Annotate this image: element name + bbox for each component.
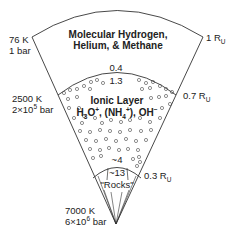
ionic-layer-formula: H3O+, (NH4+), OH− (77, 107, 158, 118)
rock-fan-line (116, 192, 122, 224)
core-pressure: 6×106 bar (65, 216, 106, 227)
ionic-top-pressure: 2×105 bar (12, 104, 53, 115)
radius-rocks-label: 0.3 RU (144, 170, 171, 181)
density-top: 0.4 (109, 62, 122, 73)
density-bottom: ~4 (112, 154, 123, 165)
radius-ionic-label: 0.7 RU (183, 90, 210, 101)
left-boundary-line (32, 37, 116, 224)
surface-temp: 76 K (9, 34, 29, 45)
outer-layer-name: Molecular Hydrogen, Helium, & Methane (69, 29, 168, 51)
density-top2: 1.3 (109, 75, 122, 86)
right-boundary-line (116, 37, 203, 224)
core-density: ~13 (109, 167, 125, 178)
surface-pressure: 1 bar (9, 45, 31, 56)
ionic-layer-name: Ionic Layer (91, 95, 144, 106)
ionic-top-temp: 2500 K (12, 93, 42, 104)
rocks-layer-name: "Rocks" (100, 179, 133, 190)
radius-outer-label: 1 RU (206, 32, 226, 43)
core-temp: 7000 K (65, 205, 95, 216)
